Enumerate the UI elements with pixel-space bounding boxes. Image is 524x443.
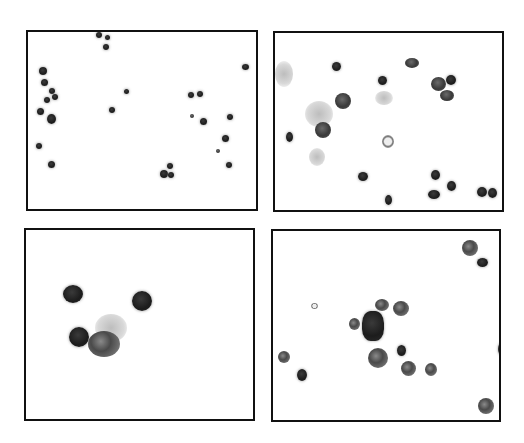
cell [431,77,446,91]
cell [311,303,318,309]
cell [382,135,394,148]
cell [440,90,454,101]
cell [124,89,129,94]
cell-aggregate [362,311,384,341]
cell [405,58,419,68]
panel-top-right [273,31,504,212]
cell [425,363,437,376]
cell [103,44,109,50]
cell [222,135,229,142]
cell [378,76,387,85]
cell [478,398,494,414]
cell [349,318,360,330]
cell [96,32,102,38]
cell [477,258,488,267]
cell [477,187,487,197]
cell [286,132,293,142]
cell-halo [309,148,325,166]
cell [446,75,456,85]
panel-bottom-left [24,228,255,421]
cell [69,327,89,347]
cell [358,172,368,181]
cell [297,369,307,381]
cell-halo [275,61,293,87]
cell [401,361,416,376]
cell [168,172,174,178]
cell [488,188,497,198]
cell [393,301,409,316]
cell [278,351,290,363]
cell [167,163,173,169]
cell [132,291,152,311]
cell [48,161,55,168]
cell [462,240,478,256]
cell [109,107,115,113]
cell [368,348,388,368]
cell [39,67,47,75]
cell [447,181,456,191]
cell-halo [375,91,393,105]
cell [375,299,389,311]
cell [315,122,331,138]
cell [242,64,249,70]
cell [88,331,120,357]
panel-top-left [26,30,258,211]
cell [52,94,58,100]
cell [105,35,110,40]
cell [428,190,440,199]
panel-bottom-right [271,229,501,422]
cell [200,118,207,125]
cell [190,114,194,118]
cell [332,62,341,71]
cell [498,343,501,355]
cell [216,149,220,153]
cell [385,195,392,205]
cell [44,97,50,103]
cell [397,345,406,356]
cell [41,79,48,86]
cell [335,93,351,109]
cell [36,143,42,149]
cell [63,285,83,303]
cell [160,170,168,178]
cell [37,108,44,115]
cell [431,170,440,180]
cell [188,92,194,98]
cell [227,114,233,120]
cell [47,114,56,124]
cell [197,91,203,97]
cell [226,162,232,168]
